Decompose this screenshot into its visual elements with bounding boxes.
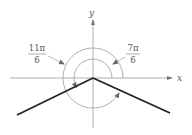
angle-diagram: x y 11π 6 7π 6 [0, 0, 192, 135]
svg-text:6: 6 [130, 55, 135, 65]
terminal-side-7pi-6 [17, 78, 93, 115]
terminal-side-11pi-6 [93, 78, 170, 113]
svg-text:6: 6 [34, 55, 39, 65]
x-axis-label: x [177, 73, 182, 83]
y-axis-label: y [88, 8, 95, 18]
svg-text:7π: 7π [128, 43, 139, 53]
label-11pi-6: 11π 6 [28, 43, 64, 65]
label-7pi-6: 7π 6 [113, 43, 140, 65]
svg-text:11π: 11π [29, 43, 46, 53]
pointer-arrow [48, 56, 64, 64]
